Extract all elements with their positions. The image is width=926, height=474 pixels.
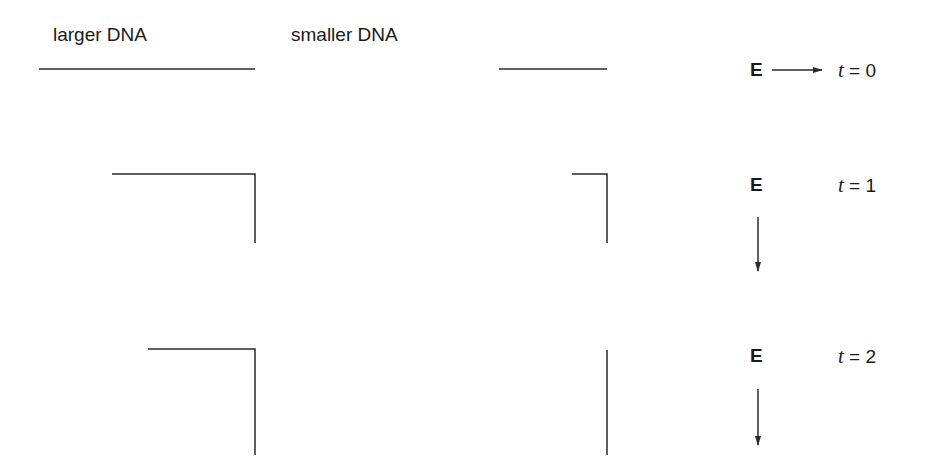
time-label-t0: t = 0 [838,58,876,83]
smaller-dna-t1 [572,174,607,243]
time-label-t1: t = 1 [838,173,876,198]
field-label-e: E [750,174,763,196]
field-label-e: E [750,59,763,81]
field-label-e: E [750,345,763,367]
dna-shape-diagram [0,0,926,474]
larger-dna-t2 [148,349,255,455]
time-label-t2: t = 2 [838,344,876,369]
larger-dna-t1 [112,174,255,243]
